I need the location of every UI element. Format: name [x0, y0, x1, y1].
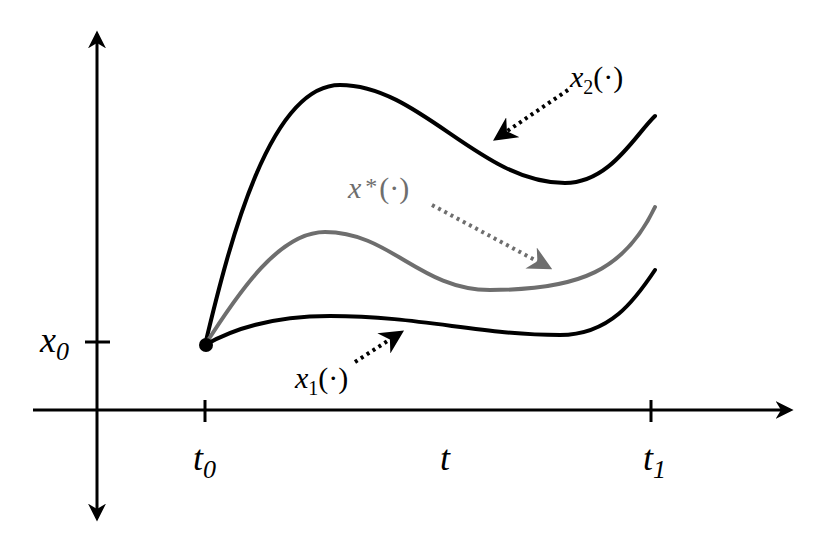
x-star-pointer-arrow — [432, 205, 548, 267]
curve-x2 — [205, 85, 655, 345]
x2-pointer-arrow — [497, 90, 568, 138]
t-axis-label: t — [440, 438, 451, 478]
x1-pointer-arrow — [355, 333, 400, 362]
x2-label: x2(·) — [569, 60, 623, 98]
curve-x1 — [205, 270, 655, 345]
x-star-label: x*(·) — [347, 171, 409, 205]
t0-label: t0 — [193, 438, 216, 484]
initial-point-marker — [199, 338, 213, 352]
x0-label: x0 — [39, 320, 69, 366]
t1-label: t1 — [643, 438, 666, 484]
trajectory-diagram: x0 t0 t t1 x2(·) x*(·) x1(·) — [0, 0, 821, 545]
x1-label: x1(·) — [294, 361, 348, 399]
